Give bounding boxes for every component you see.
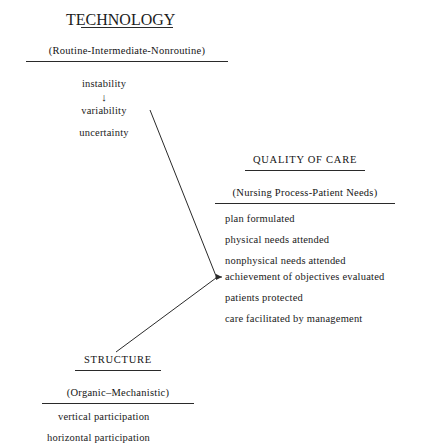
technology-title-underline xyxy=(81,27,173,28)
block-quality-subtitle: (Nursing Process-Patient Needs) xyxy=(215,187,395,198)
technology-item-instability: instability xyxy=(62,78,146,89)
quality-item-physical-needs: physical needs attended xyxy=(225,234,329,245)
structure-title-underline xyxy=(75,370,161,371)
quality-title-underline xyxy=(245,170,365,171)
quality-item-plan-formulated: plan formulated xyxy=(225,213,295,224)
connector-technology-to-quality xyxy=(150,110,216,276)
quality-item-care-facilitated: care facilitated by management xyxy=(225,313,362,324)
block-technology-subtitle: (Routine-Intermediate-Nonroutine) xyxy=(26,45,228,56)
block-structure-subtitle: (Organic–Mechanistic) xyxy=(42,387,194,398)
quality-subtitle-underline xyxy=(215,203,395,204)
quality-item-achievement-evaluated: achievement of objectives evaluated xyxy=(225,271,384,282)
diagram-canvas: TECHNOLOGY (Routine-Intermediate-Nonrout… xyxy=(0,0,440,446)
block-structure-title: STRUCTURE xyxy=(57,354,179,365)
quality-item-nonphysical-needs: nonphysical needs attended xyxy=(225,255,346,266)
connector-structure-to-quality xyxy=(116,278,216,352)
technology-item-variability: variability xyxy=(62,105,146,116)
technology-item-uncertainty: uncertainty xyxy=(62,127,146,138)
technology-subtitle-underline xyxy=(26,61,228,62)
quality-item-patients-protected: patients protected xyxy=(225,292,303,303)
arrow-down-icon: ↓ xyxy=(62,93,146,102)
structure-item-horizontal-participation: horizontal participation xyxy=(47,432,150,443)
block-quality-title: QUALITY OF CARE xyxy=(225,154,385,165)
connector-lines-group xyxy=(0,0,440,446)
structure-item-vertical-participation: vertical participation xyxy=(58,411,150,422)
structure-subtitle-underline xyxy=(42,403,194,404)
